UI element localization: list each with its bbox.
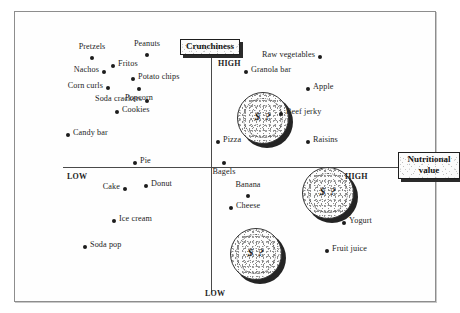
scatter-point-marker — [123, 187, 127, 191]
scatter-point-marker — [306, 140, 310, 144]
scatter-point-marker — [216, 140, 220, 144]
horizontal-axis-line — [63, 167, 413, 168]
scatter-point-marker — [102, 70, 106, 74]
horizontal-axis-title-line2: value — [419, 165, 440, 175]
scatter-point-marker — [318, 55, 322, 59]
scatter-point-label: Donut — [151, 179, 172, 188]
scatter-point-label: Cake — [103, 182, 120, 191]
scatter-point-marker — [112, 219, 116, 223]
scatter-point-label: Cookies — [122, 105, 150, 114]
scatter-point-label: Yogurt — [349, 216, 372, 225]
scatter-point-marker — [133, 161, 137, 165]
scatter-point-label: Soda pop — [90, 240, 122, 249]
scatter-point-marker — [229, 206, 233, 210]
scatter-point-label: Cheese — [236, 201, 260, 210]
figure-frame: $ ? $ ? $ ? LOW HIGH HIGH LOW Crunchines… — [14, 11, 436, 302]
scatter-point-marker — [131, 77, 135, 81]
scatter-point-label: Bagels — [213, 167, 236, 176]
scatter-point-marker — [144, 184, 148, 188]
scatter-point-label: Candy bar — [73, 128, 108, 137]
coin-face: $ ? — [230, 228, 282, 280]
scatter-point-marker — [106, 86, 110, 90]
scatter-point-label: Pie — [140, 156, 151, 165]
scatter-point-marker — [66, 133, 70, 137]
scatter-point-label: Potato chips — [138, 72, 179, 81]
scatter-point-label: Nachos — [74, 65, 99, 74]
scatter-point-marker — [137, 87, 141, 91]
price-coin-lower-center: $ ? — [230, 228, 286, 284]
scatter-point-marker — [115, 110, 119, 114]
scatter-point-label: Banana — [235, 180, 260, 189]
scatter-point-marker — [90, 56, 94, 60]
coin-price-mark: $ ? — [303, 185, 353, 197]
scatter-point-label: Fruit juice — [332, 244, 367, 253]
scatter-point-marker — [83, 245, 87, 249]
coin-face: $ ? — [237, 92, 289, 144]
horizontal-axis-title-line1: Nutritional — [407, 154, 450, 164]
horizontal-axis-title-box: Nutritional value — [398, 152, 460, 179]
scatter-point-marker — [244, 70, 248, 74]
scatter-point-marker — [279, 112, 283, 116]
scatter-point-marker — [342, 221, 346, 225]
axis-pole-nutrition-low: LOW — [67, 172, 87, 181]
scatter-point-marker — [222, 161, 226, 165]
price-coin-upper-right: $ ? — [237, 92, 293, 148]
vertical-axis-title-box: Crunchiness — [180, 39, 240, 55]
axis-pole-nutrition-high: HIGH — [345, 172, 368, 181]
scatter-point-label: Corn curls — [68, 81, 103, 90]
scatter-point-marker — [111, 64, 115, 68]
scatter-point-label: Raw vegetables — [262, 50, 315, 59]
scatter-point-label: Beef jerky — [286, 107, 321, 116]
axis-pole-crunchiness-high: HIGH — [218, 59, 241, 68]
scatter-point-label: Pretzels — [79, 42, 106, 51]
scatter-point-label: Soda crackers — [95, 94, 142, 103]
scatter-point-marker — [306, 87, 310, 91]
scatter-point-label: Apple — [313, 82, 334, 91]
scatter-point-label: Granola bar — [251, 65, 291, 74]
scatter-point-label: Peanuts — [134, 39, 160, 48]
scatter-point-label: Ice cream — [119, 214, 152, 223]
vertical-axis-title-text: Crunchiness — [186, 41, 234, 51]
axis-pole-crunchiness-low: LOW — [205, 289, 225, 298]
scatter-point-label: Raisins — [313, 135, 338, 144]
scatter-point-marker — [246, 194, 250, 198]
coin-price-mark: $ ? — [231, 246, 281, 258]
scatter-point-marker — [145, 99, 149, 103]
scatter-point-label: Fritos — [118, 59, 138, 68]
scatter-point-marker — [145, 53, 149, 57]
scatter-point-marker — [325, 249, 329, 253]
scatter-point-label: Pizza — [223, 135, 241, 144]
